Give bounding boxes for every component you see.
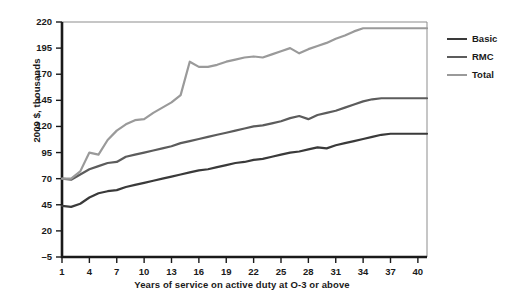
y-tick-label: 45 [0, 199, 52, 210]
legend-label: Basic [472, 34, 497, 44]
legend-swatch-basic [447, 38, 467, 41]
y-tick-label: 95 [0, 147, 52, 158]
legend-item-total[interactable]: Total [447, 66, 527, 84]
y-tick-label: 70 [0, 173, 52, 184]
legend-item-rmc[interactable]: RMC [447, 48, 527, 66]
y-tick-label: 195 [0, 42, 52, 53]
y-tick-label: –5 [0, 251, 52, 262]
legend-label: RMC [472, 52, 494, 62]
y-tick-label: 170 [0, 68, 52, 79]
chart-figure: 2009 $, thousands Years of service on ac… [0, 0, 530, 301]
y-tick-label: 120 [0, 120, 52, 131]
legend-label: Total [472, 70, 494, 80]
y-tick-label: 220 [0, 16, 52, 27]
legend-swatch-rmc [447, 56, 467, 59]
legend-item-basic[interactable]: Basic [447, 30, 527, 48]
x-tick-label: 40 [398, 266, 438, 277]
legend-swatch-total [447, 74, 467, 77]
y-tick-label: 145 [0, 94, 52, 105]
y-tick-label: 20 [0, 225, 52, 236]
chart-legend: BasicRMCTotal [447, 30, 527, 84]
